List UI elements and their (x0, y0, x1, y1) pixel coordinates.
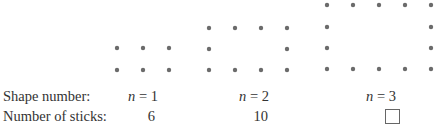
shape-1-sticks-value: 6 (140, 108, 155, 124)
dot (259, 26, 263, 30)
shape-3-sticks-answer-box[interactable] (385, 109, 400, 124)
shape-2-n-label: n = 2 (239, 88, 269, 104)
dot (167, 68, 171, 72)
shape-1-n-label: n = 1 (128, 88, 158, 104)
dot (207, 26, 211, 30)
shape-3-dots (325, 3, 433, 71)
dot (403, 3, 407, 7)
dot (325, 25, 329, 29)
dot (285, 47, 289, 51)
dot (207, 68, 211, 72)
dot (285, 68, 289, 72)
dot (141, 46, 145, 50)
dot-pattern-diagram (0, 0, 438, 80)
dot (377, 67, 381, 71)
number-of-sticks-label: Number of sticks: (3, 108, 107, 124)
shape-1-dots (115, 46, 171, 72)
dot (115, 46, 119, 50)
shape-3-n-label: n = 3 (366, 88, 396, 104)
dot (377, 3, 381, 7)
dot (429, 46, 433, 50)
dot (351, 67, 355, 71)
dot (233, 68, 237, 72)
dot (259, 68, 263, 72)
dot (429, 3, 433, 7)
shape-2-dots (207, 26, 289, 72)
dot (325, 3, 329, 7)
shape-number-label: Shape number: (3, 88, 90, 104)
dot (325, 67, 329, 71)
dot (325, 46, 329, 50)
dot (167, 46, 171, 50)
dot (429, 67, 433, 71)
shape-2-sticks-value: 10 (248, 108, 268, 124)
dot (207, 47, 211, 51)
dot (141, 68, 145, 72)
dot (285, 26, 289, 30)
dot (233, 26, 237, 30)
dot (115, 68, 119, 72)
dot (351, 3, 355, 7)
dot (403, 67, 407, 71)
dot (429, 25, 433, 29)
